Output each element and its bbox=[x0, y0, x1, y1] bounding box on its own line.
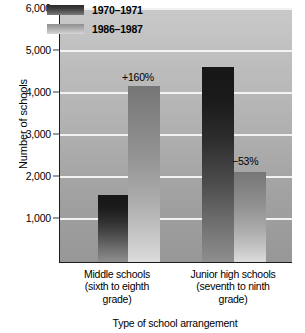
y-tick-label-2000: 2,000 bbox=[7, 170, 51, 182]
y-tick-label-4000: 4,000 bbox=[7, 86, 51, 98]
legend-label-1986-1987: 1986–1987 bbox=[92, 23, 143, 35]
y-tick-label-6000: 6,000 bbox=[7, 2, 51, 14]
x-category-junior-high-line3: grade) bbox=[175, 293, 291, 305]
gridline-5000 bbox=[60, 50, 292, 52]
y-tick-label-1000: 1,000 bbox=[7, 212, 51, 224]
annotation-middle-schools-change: +160% bbox=[122, 71, 154, 83]
legend-item-1986-1987[interactable]: 1986–1987 bbox=[47, 21, 197, 36]
x-category-middle-schools: Middle schools (sixth to eighth grade) bbox=[59, 268, 175, 305]
x-category-middle-schools-line3: grade) bbox=[59, 293, 175, 305]
plot-area: +160% −53% bbox=[59, 8, 292, 263]
legend-swatch-icon-1986-1987 bbox=[47, 24, 84, 34]
annotation-junior-high-change: −53% bbox=[232, 155, 258, 167]
x-axis-category-labels: Middle schools (sixth to eighth grade) J… bbox=[59, 268, 291, 305]
y-tick-label-3000: 3,000 bbox=[7, 128, 51, 140]
bar-middle-schools-1986[interactable] bbox=[128, 86, 160, 262]
y-tick-label-5000: 5,000 bbox=[7, 44, 51, 56]
legend-swatch-icon-1970-1971 bbox=[47, 5, 84, 15]
gridline-3000 bbox=[60, 134, 292, 136]
x-category-middle-schools-line2: (sixth to eighth bbox=[59, 280, 175, 292]
x-category-junior-high-line1: Junior high schools bbox=[175, 268, 291, 280]
bar-junior-high-1970[interactable] bbox=[202, 67, 234, 262]
x-axis-title: Type of school arrangement bbox=[59, 317, 291, 329]
x-category-junior-high-schools: Junior high schools (seventh to ninth gr… bbox=[175, 268, 291, 305]
bar-chart: Number of schools 6,000 5,000 4,000 3,00… bbox=[0, 0, 305, 333]
legend-item-1970-1971[interactable]: 1970–1971 bbox=[47, 2, 197, 17]
bar-middle-schools-1970[interactable] bbox=[98, 195, 128, 262]
x-category-junior-high-line2: (seventh to ninth bbox=[175, 280, 291, 292]
x-category-middle-schools-line1: Middle schools bbox=[59, 268, 175, 280]
bar-junior-high-1986[interactable] bbox=[234, 172, 266, 262]
legend: 1970–1971 1986–1987 bbox=[47, 2, 197, 40]
y-axis-tick-labels: 6,000 5,000 4,000 3,000 2,000 1,000 bbox=[0, 0, 51, 333]
gridline-4000 bbox=[60, 92, 292, 94]
legend-label-1970-1971: 1970–1971 bbox=[92, 4, 143, 16]
